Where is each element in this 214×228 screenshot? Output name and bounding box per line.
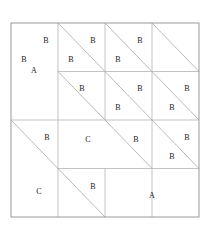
label-b-r2c2: B (133, 135, 138, 144)
label-a-top-left: A (31, 66, 37, 75)
label-a-bottom-right: A (149, 191, 155, 200)
label-b-r2c3-upper: B (184, 133, 189, 142)
label-b-r1c3-upper: B (184, 84, 189, 93)
quilt-block-page: Block #19 (0, 0, 214, 228)
label-c-center: C (85, 135, 90, 144)
label-b-r0c1-lower: B (21, 55, 26, 64)
label-b-r1c2-upper: B (137, 84, 142, 93)
block-svg: A B B B B B B B B B B B C B B B B C B (0, 0, 214, 228)
label-b-r0c2-lower: B (68, 55, 73, 64)
label-b-bottom-middle: B (90, 182, 95, 191)
label-b-r1c1: B (79, 84, 84, 93)
label-b-r0c2-upper: B (90, 36, 95, 45)
label-b-r0c1-upper: B (43, 36, 48, 45)
quilt-block-diagram: A B B B B B B B B B B B C B B B B C B (0, 0, 214, 228)
label-b-r1c3-lower: B (169, 103, 174, 112)
label-b-r2c3-lower: B (169, 152, 174, 161)
label-b-bottom-left: B (44, 133, 49, 142)
label-c-bottom-left: C (36, 187, 41, 196)
label-b-r0c3-lower: B (115, 55, 120, 64)
label-b-r0c3-upper: B (137, 36, 142, 45)
label-b-r1c2-lower: B (115, 103, 120, 112)
